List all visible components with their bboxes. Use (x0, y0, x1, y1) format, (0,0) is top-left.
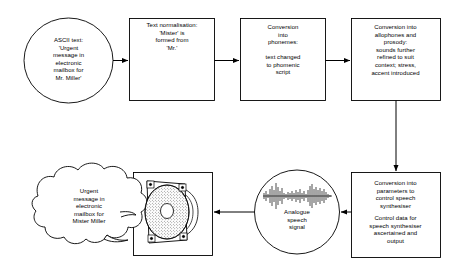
node-heard-message-shape (32, 163, 147, 244)
node-conversion-allophones-shape (352, 19, 441, 101)
flow-diagram-canvas: ASCII text: 'Urgent message in electroni… (0, 0, 453, 270)
diagram-vector-layer (0, 0, 453, 270)
node-conversion-phonemes-shape (241, 19, 326, 101)
node-text-normalisation-shape (130, 19, 215, 101)
node-analogue-speech-signal-shape (255, 170, 340, 254)
node-ascii-text-shape (24, 18, 113, 103)
node-conversion-parameters-shape (352, 173, 441, 258)
